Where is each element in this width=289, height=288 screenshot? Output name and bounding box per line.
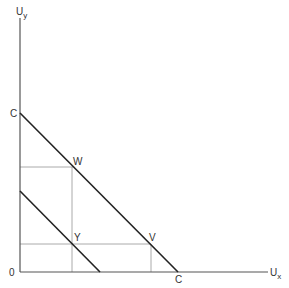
point-c-top: C — [10, 108, 17, 119]
x-axis-label: Ux — [270, 267, 281, 281]
frontier-cc — [20, 113, 178, 272]
point-c-bottom: C — [175, 274, 182, 285]
origin-label: 0 — [9, 267, 15, 278]
frontier-inner — [20, 191, 100, 272]
y-axis-label: Uy — [16, 6, 27, 20]
point-w: W — [73, 156, 83, 167]
point-v: V — [149, 232, 156, 243]
point-y: Y — [74, 232, 81, 243]
utility-possibility-diagram: Uy Ux 0 C C W Y V — [0, 0, 289, 288]
